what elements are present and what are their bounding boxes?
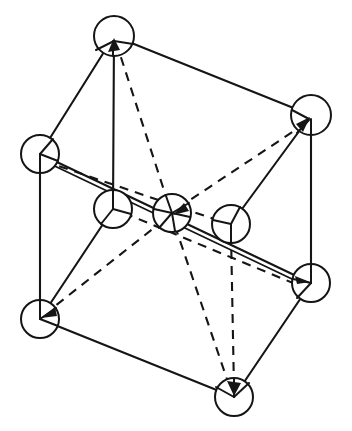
atom-bottom (215, 378, 253, 416)
atom-mid-right (212, 205, 250, 243)
edge-top-to-top-right (114, 36, 311, 115)
atom-mid-left (94, 190, 132, 228)
edge-bottom-to-bottom-right (234, 283, 311, 397)
dashed-center-to-bottom (175, 226, 231, 391)
atom-bottom-right (292, 264, 330, 302)
edge-bottom-left-to-bottom (40, 319, 234, 397)
lattice-diagram-svg (0, 0, 352, 431)
atom-center (153, 194, 191, 232)
crystal-lattice-figure (0, 0, 352, 431)
atom-top-left (21, 135, 59, 173)
atom-top (94, 16, 134, 56)
atom-top-right (291, 95, 331, 135)
atom-group (21, 16, 331, 416)
edge-top-to-mid-left (113, 36, 114, 209)
dashed-center-to-top-right (178, 121, 309, 208)
atom-bottom-left (21, 300, 59, 338)
dashed-center-to-bottom-left (45, 220, 164, 314)
